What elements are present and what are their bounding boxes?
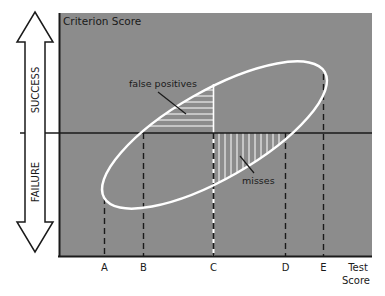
- x-axis-title-line2: Score: [342, 275, 370, 286]
- y-axis-title: Criterion Score: [63, 15, 141, 27]
- success-failure-double-arrow: [17, 12, 53, 252]
- cutoff-label-d: D: [282, 262, 290, 273]
- false-positives-label: false positives: [129, 78, 197, 89]
- cutoff-label-a: A: [101, 262, 108, 273]
- x-axis-title-line1: Test: [347, 262, 368, 273]
- misses-label: misses: [242, 175, 275, 186]
- cutoff-label-b: B: [140, 262, 147, 273]
- cutoff-label-e: E: [320, 262, 326, 273]
- plot-panel: [59, 13, 372, 256]
- cutoff-label-c: C: [210, 262, 217, 273]
- selection-diagram: Criterion Score false positives misses S…: [0, 0, 385, 296]
- failure-label: FAILURE: [30, 162, 41, 202]
- success-label: SUCCESS: [30, 67, 41, 114]
